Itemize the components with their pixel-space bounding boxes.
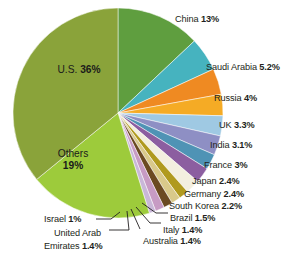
- callout-italy: Italy 1.4%: [163, 225, 202, 236]
- callout-japan-value: 2.4%: [219, 176, 240, 186]
- callout-uk-name: UK: [219, 120, 232, 130]
- callout-uae-line2: Emirates 1.4%: [44, 241, 102, 252]
- callout-china-name: China: [175, 14, 199, 24]
- callout-uk-value: 3.3%: [234, 120, 255, 130]
- callout-italy-name: Italy: [163, 225, 179, 235]
- callout-australia-value: 1.4%: [180, 236, 201, 246]
- callout-south-korea: South Korea 2.2%: [169, 201, 242, 212]
- callout-uae-line1: United Arab: [54, 228, 101, 239]
- callout-india-value: 3.1%: [232, 140, 253, 150]
- callout-uk: UK 3.3%: [219, 120, 255, 131]
- callout-france-name: France: [204, 160, 232, 170]
- slice-label-us-value: 36%: [80, 64, 100, 75]
- callout-uae-name2: Emirates: [44, 241, 79, 251]
- callout-saudi-arabia: Saudi Arabia 5.2%: [206, 62, 280, 73]
- pie-chart-figure: U.S. 36% Others 19% China 13% Saudi Arab…: [0, 0, 303, 258]
- callout-india: India 3.1%: [210, 140, 252, 151]
- callout-france-value: 3%: [234, 160, 247, 170]
- slice-label-others-name: Others: [58, 148, 89, 159]
- callout-russia: Russia 4%: [214, 93, 257, 104]
- callout-italy-value: 1.4%: [182, 225, 203, 235]
- slice-label-others: Others 19%: [28, 148, 118, 172]
- callout-israel-name: Israel: [44, 214, 66, 224]
- slice-label-others-value: 19%: [63, 160, 83, 171]
- slice-label-us-name: U.S.: [57, 64, 77, 75]
- callout-china-value: 13%: [201, 14, 219, 24]
- callout-brazil-value: 1.5%: [195, 213, 216, 223]
- callout-germany-value: 2.4%: [224, 189, 245, 199]
- callout-russia-name: Russia: [214, 93, 241, 103]
- callout-uae-name: United Arab: [54, 228, 101, 238]
- callout-russia-value: 4%: [244, 93, 257, 103]
- callout-france: France 3%: [204, 160, 248, 171]
- callout-brazil-name: Brazil: [170, 213, 192, 223]
- callout-israel-value: 1%: [68, 214, 81, 224]
- callout-japan-name: Japan: [192, 176, 217, 186]
- callout-germany-name: Germany: [184, 189, 221, 199]
- callout-china: China 13%: [175, 14, 219, 25]
- callout-germany: Germany 2.4%: [184, 189, 244, 200]
- callout-south-korea-value: 2.2%: [221, 201, 242, 211]
- callout-india-name: India: [210, 140, 229, 150]
- callout-saudi-arabia-name: Saudi Arabia: [206, 62, 257, 72]
- callout-australia: Australia 1.4%: [143, 236, 201, 247]
- callout-saudi-arabia-value: 5.2%: [259, 62, 280, 72]
- callout-israel: Israel 1%: [44, 214, 81, 225]
- callout-japan: Japan 2.4%: [192, 176, 240, 187]
- callout-south-korea-name: South Korea: [169, 201, 219, 211]
- callout-australia-name: Australia: [143, 236, 178, 246]
- callout-uae-value: 1.4%: [82, 241, 103, 251]
- callout-brazil: Brazil 1.5%: [170, 213, 215, 224]
- slice-label-us: U.S. 36%: [34, 64, 124, 76]
